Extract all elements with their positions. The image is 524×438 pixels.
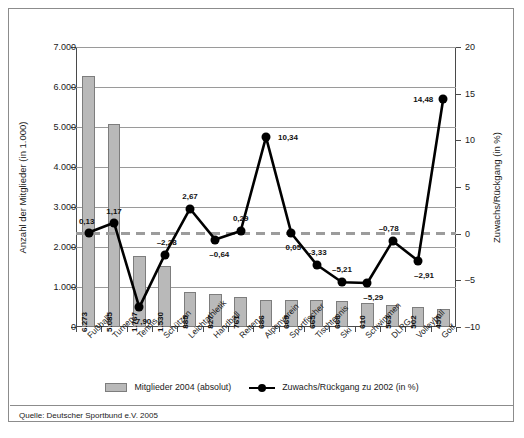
y-axis-title-left-text: Anzahl der Mitglieder (in 1.000): [17, 121, 28, 253]
line-marker: [110, 218, 119, 227]
plot-area: 6.2735.0851.7671.53088582776168666966566…: [76, 47, 456, 327]
line-value-label: 10,34: [278, 133, 298, 142]
line-value-label: –0,64: [209, 249, 229, 258]
line-marker: [439, 94, 448, 103]
legend-line-label: Zuwachs/Rückgang zu 2002 (in %): [282, 382, 418, 392]
left-axis-tick-label: 7.000: [9, 42, 84, 52]
line-value-label: –2,28: [157, 237, 177, 246]
right-axis-tick-label: 15: [456, 89, 475, 99]
source-divider: [10, 405, 514, 406]
chart-frame: Anzahl der Mitglieder (in 1.000) Zuwachs…: [8, 8, 514, 422]
left-axis-tick-label: 1.000: [9, 282, 84, 292]
x-axis-category-labels: FußballTurnenTennisSchützenLeichtathleti…: [76, 329, 456, 387]
line-value-label: 1,17: [106, 206, 122, 215]
chart-legend: Mitglieder 2004 (absolut) Zuwachs/Rückga…: [9, 382, 515, 392]
legend-item-line: Zuwachs/Rückgang zu 2002 (in %): [249, 382, 418, 392]
line-marker: [135, 303, 144, 312]
line-value-label: –5,21: [332, 265, 352, 274]
legend-item-bars: Mitglieder 2004 (absolut): [105, 382, 231, 392]
left-axis-tick-label: 4.000: [9, 162, 84, 172]
line-marker: [236, 227, 245, 236]
line-marker: [414, 256, 423, 265]
line-marker: [312, 260, 321, 269]
line-value-label: –2,91: [414, 270, 434, 279]
right-axis-tick-label: 5: [456, 182, 470, 192]
right-axis-tick-label: 0: [456, 229, 470, 239]
line-marker: [262, 133, 271, 142]
line-marker: [363, 279, 372, 288]
left-axis-tick-label: 0: [9, 322, 84, 332]
line-value-label: 0,05: [286, 243, 302, 252]
line-value-label: 0,29: [233, 214, 249, 223]
y-axis-title-right-text: Zuwachs/Rückgang (in %): [491, 132, 502, 243]
line-marker: [84, 228, 93, 237]
legend-bars-label: Mitglieder 2004 (absolut): [134, 382, 231, 392]
right-axis-tick-label: –10: [456, 322, 480, 332]
y-axis-title-right: Zuwachs/Rückgang (in %): [489, 47, 503, 327]
source-note: Quelle: Deutscher Sportbund e.V. 2005: [19, 411, 158, 420]
right-axis-tick-label: –5: [456, 275, 475, 285]
line-value-label: –3,33: [307, 247, 327, 256]
right-axis-tick-label: 10: [456, 135, 475, 145]
line-value-label: 2,67: [182, 191, 198, 200]
legend-line-swatch-icon: [249, 383, 275, 392]
line-marker: [287, 229, 296, 238]
left-axis-tick-label: 3.000: [9, 202, 84, 212]
left-axis-tick-label: 5.000: [9, 122, 84, 132]
line-value-label: –0,78: [379, 223, 399, 232]
line-value-label: –5,29: [363, 293, 383, 302]
line-value-label: 14,48: [413, 94, 433, 103]
line-series-path: [76, 47, 456, 327]
line-marker: [186, 204, 195, 213]
legend-bar-swatch-icon: [105, 383, 127, 392]
line-marker: [160, 250, 169, 259]
line-marker: [388, 236, 397, 245]
line-marker: [211, 235, 220, 244]
right-axis-tick-label: 20: [456, 42, 475, 52]
line-marker: [338, 278, 347, 287]
left-axis-tick-label: 2.000: [9, 242, 84, 252]
left-axis-tick-label: 6.000: [9, 82, 84, 92]
line-value-label: 0,13: [79, 216, 95, 225]
